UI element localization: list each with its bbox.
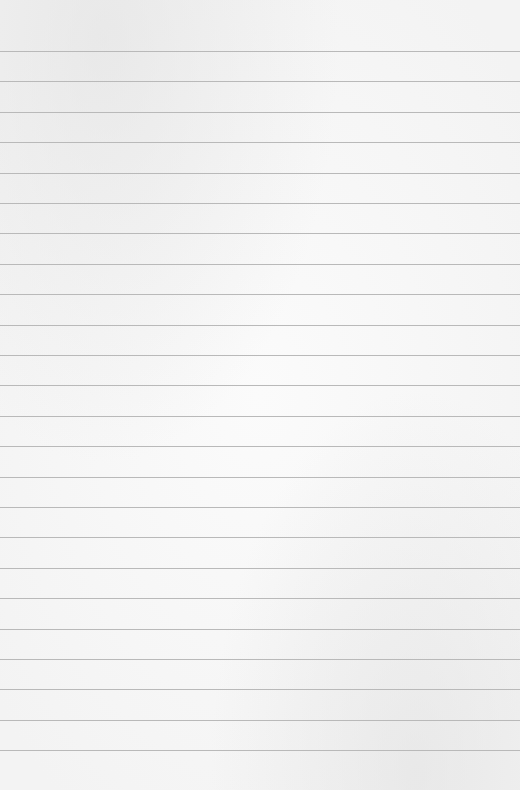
ruled-line [0, 750, 520, 751]
ruled-line [0, 233, 520, 234]
ruled-line [0, 355, 520, 356]
ruled-line [0, 112, 520, 113]
ruled-line [0, 142, 520, 143]
ruled-line [0, 659, 520, 660]
ruled-line [0, 294, 520, 295]
ruled-line [0, 537, 520, 538]
ruled-line [0, 385, 520, 386]
ruled-line [0, 416, 520, 417]
ruled-line [0, 507, 520, 508]
ruled-line [0, 689, 520, 690]
ruled-line [0, 477, 520, 478]
ruled-line [0, 720, 520, 721]
ruled-line [0, 598, 520, 599]
ruled-line [0, 81, 520, 82]
ruled-line [0, 446, 520, 447]
ruled-line [0, 203, 520, 204]
lined-paper-sheet [0, 0, 520, 790]
ruled-line [0, 51, 520, 52]
ruled-line [0, 568, 520, 569]
ruled-line [0, 173, 520, 174]
ruled-line [0, 264, 520, 265]
ruled-line [0, 629, 520, 630]
ruled-line [0, 325, 520, 326]
